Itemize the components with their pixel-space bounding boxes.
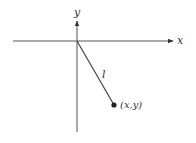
point-xy bbox=[111, 102, 116, 107]
segment-l bbox=[77, 41, 114, 105]
y-axis-label: y bbox=[73, 6, 81, 19]
point-label: (x,y) bbox=[120, 99, 142, 110]
x-axis-label: x bbox=[177, 34, 184, 47]
diagram-canvas: y x l (x,y) bbox=[0, 0, 196, 143]
segment-label: l bbox=[102, 68, 106, 81]
